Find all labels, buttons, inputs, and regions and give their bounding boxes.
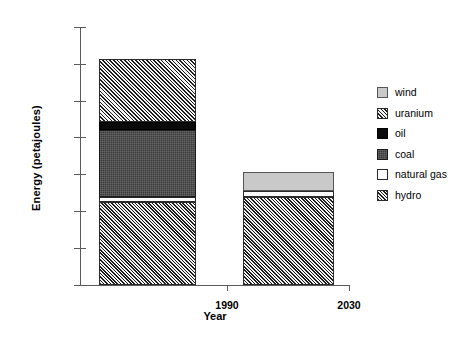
y-tick-in-2500	[80, 101, 86, 102]
legend-item-hydro[interactable]: hydro	[377, 188, 466, 209]
legend-item-natural-gas[interactable]: natural gas	[377, 167, 466, 188]
y-axis-line	[80, 27, 81, 285]
bar-segment-2030-hydro[interactable]	[243, 197, 334, 286]
legend-label-hydro: hydro	[395, 189, 421, 201]
coal-swatch-icon	[377, 149, 388, 160]
y-tick-in-3500	[80, 27, 86, 28]
plot-area: 0 500 1000 1500 2000 2500 3000 3500 1990…	[80, 27, 350, 285]
bar-1990[interactable]	[99, 59, 196, 285]
uranium-swatch-icon	[377, 108, 388, 119]
wind-swatch-icon	[377, 87, 388, 98]
legend-label-natural-gas: natural gas	[395, 168, 447, 180]
legend-label-oil: oil	[395, 127, 406, 139]
y-tick-in-3000	[80, 64, 86, 65]
oil-swatch-icon	[377, 128, 388, 139]
y-axis-label: Energy (petajoules)	[30, 58, 42, 258]
bar-segment-1990-coal[interactable]	[99, 130, 196, 197]
legend-item-oil[interactable]: oil	[377, 126, 466, 147]
x-tick-1990	[227, 285, 228, 291]
y-tick-in-500	[80, 248, 86, 249]
y-tick-in-0	[80, 285, 86, 286]
legend-item-uranium[interactable]: uranium	[377, 106, 466, 127]
bar-segment-1990-hydro[interactable]	[99, 202, 196, 285]
y-tick-in-1000	[80, 211, 86, 212]
bar-segment-1990-uranium[interactable]	[99, 59, 196, 122]
bar-2030[interactable]	[243, 172, 334, 286]
bar-segment-2030-natural-gas[interactable]	[243, 191, 334, 197]
hydro-swatch-icon	[377, 190, 388, 201]
y-tick-in-1500	[80, 174, 86, 175]
x-axis-line	[80, 285, 350, 286]
legend-item-coal[interactable]: coal	[377, 147, 466, 168]
bar-segment-1990-natural-gas[interactable]	[99, 197, 196, 202]
chart-legend: wind uranium oil coal natural gas hydro	[377, 85, 466, 209]
bar-segment-2030-wind[interactable]	[243, 172, 334, 191]
chart-figure: Energy (petajoules) 0 500 1000 1500 2000…	[0, 0, 466, 339]
y-tick-in-2000	[80, 137, 86, 138]
natural-gas-swatch-icon	[377, 169, 388, 180]
x-axis-label: Year	[80, 310, 350, 322]
legend-label-coal: coal	[395, 148, 414, 160]
bar-segment-1990-oil[interactable]	[99, 122, 196, 130]
x-tick-2030	[349, 285, 350, 291]
legend-item-wind[interactable]: wind	[377, 85, 466, 106]
legend-label-wind: wind	[395, 86, 417, 98]
legend-label-uranium: uranium	[395, 107, 433, 119]
